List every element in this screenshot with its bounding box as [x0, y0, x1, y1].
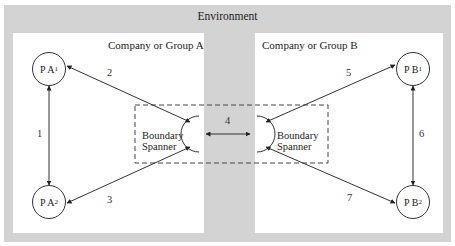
- boundary-spanner-b-line2: Spanner: [277, 141, 318, 152]
- link-1-label: 1: [37, 128, 42, 139]
- node-pb1: P B1: [396, 52, 430, 86]
- link-5-label: 5: [346, 67, 351, 78]
- node-pb2-sub: 2: [418, 198, 422, 206]
- node-pa1: P A1: [32, 52, 66, 86]
- node-pa2: P A2: [32, 185, 66, 219]
- node-pa1-label: P A: [40, 64, 54, 75]
- boundary-spanner-b-line1: Boundary: [277, 130, 318, 141]
- node-pb2-label: P B: [404, 197, 418, 208]
- boundary-spanner-a-line2: Spanner: [142, 141, 183, 152]
- link-7-label: 7: [347, 192, 352, 203]
- link-6-label: 6: [419, 128, 424, 139]
- link-4-label: 4: [225, 115, 230, 126]
- node-pa2-sub: 2: [54, 198, 58, 206]
- node-pb2: P B2: [396, 185, 430, 219]
- link-2-label: 2: [107, 67, 112, 78]
- node-pa2-label: P A: [40, 197, 54, 208]
- link-3-label: 3: [107, 194, 112, 205]
- node-pb1-sub: 1: [418, 65, 422, 73]
- boundary-spanner-b-label: Boundary Spanner: [277, 130, 318, 152]
- node-pb1-label: P B: [404, 64, 418, 75]
- node-pa1-sub: 1: [54, 65, 58, 73]
- boundary-spanner-a-label: Boundary Spanner: [142, 130, 183, 152]
- boundary-spanner-a-line1: Boundary: [142, 130, 183, 141]
